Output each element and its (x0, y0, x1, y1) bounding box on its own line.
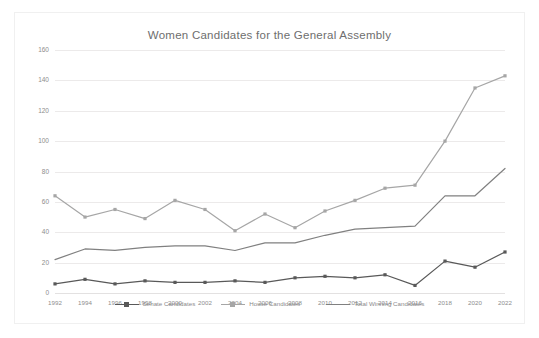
y-axis-tick-label: 120 (38, 108, 49, 115)
data-point-marker (203, 281, 206, 284)
data-point-marker (83, 215, 86, 218)
data-point-marker (383, 187, 386, 190)
data-point-marker (233, 229, 236, 232)
data-point-marker (53, 282, 56, 285)
chart-title: Women Candidates for the General Assembl… (15, 29, 524, 41)
y-axis-tick-label: 140 (38, 77, 49, 84)
data-point-marker (503, 250, 506, 253)
data-point-marker (173, 199, 176, 202)
y-axis-tick-label: 40 (42, 229, 49, 236)
legend-swatch-icon (326, 301, 350, 308)
data-point-marker (443, 140, 446, 143)
data-point-marker (143, 279, 146, 282)
data-point-marker (443, 260, 446, 263)
legend-swatch-icon (115, 301, 139, 308)
data-point-marker (293, 226, 296, 229)
series-line (55, 252, 505, 285)
data-point-marker (503, 74, 506, 77)
data-point-marker (233, 279, 236, 282)
legend-label: Total Winning Candidates (354, 301, 424, 307)
plot-area: 020406080100120140160 199219941996199820… (55, 50, 505, 293)
y-axis-tick-label: 160 (38, 47, 49, 54)
data-point-marker (113, 208, 116, 211)
data-point-marker (263, 281, 266, 284)
data-point-marker (83, 278, 86, 281)
data-point-marker (353, 199, 356, 202)
y-axis-tick-label: 20 (42, 259, 49, 266)
legend-item-senate-candidates[interactable]: Senate Candidates (115, 301, 196, 308)
series-house-candidates (53, 74, 506, 232)
data-point-marker (143, 217, 146, 220)
chart-container: Women Candidates for the General Assembl… (14, 12, 525, 324)
legend-label: House Candidates (249, 301, 300, 307)
data-point-marker (413, 284, 416, 287)
series-line (55, 168, 505, 259)
y-axis-tick-label: 100 (38, 138, 49, 145)
data-point-marker (323, 209, 326, 212)
data-point-marker (473, 86, 476, 89)
data-point-marker (323, 275, 326, 278)
series-plot (55, 50, 505, 293)
data-point-marker (263, 212, 266, 215)
data-point-marker (383, 273, 386, 276)
gridline (55, 293, 505, 294)
y-axis-tick-label: 60 (42, 199, 49, 206)
series-total-winning-candidates (55, 168, 505, 259)
data-point-marker (473, 266, 476, 269)
data-point-marker (293, 276, 296, 279)
legend-item-total-winning-candidates[interactable]: Total Winning Candidates (326, 301, 424, 308)
series-line (55, 76, 505, 231)
legend-item-house-candidates[interactable]: House Candidates (221, 301, 300, 308)
data-point-marker (113, 282, 116, 285)
data-point-marker (53, 194, 56, 197)
data-point-marker (203, 208, 206, 211)
y-axis-tick-label: 0 (45, 290, 49, 297)
y-axis-tick-label: 80 (42, 168, 49, 175)
series-senate-candidates (53, 250, 506, 287)
legend-label: Senate Candidates (143, 301, 196, 307)
data-point-marker (173, 281, 176, 284)
chart-legend: Senate CandidatesHouse CandidatesTotal W… (15, 301, 524, 308)
data-point-marker (413, 184, 416, 187)
data-point-marker (353, 276, 356, 279)
legend-swatch-icon (221, 301, 245, 308)
